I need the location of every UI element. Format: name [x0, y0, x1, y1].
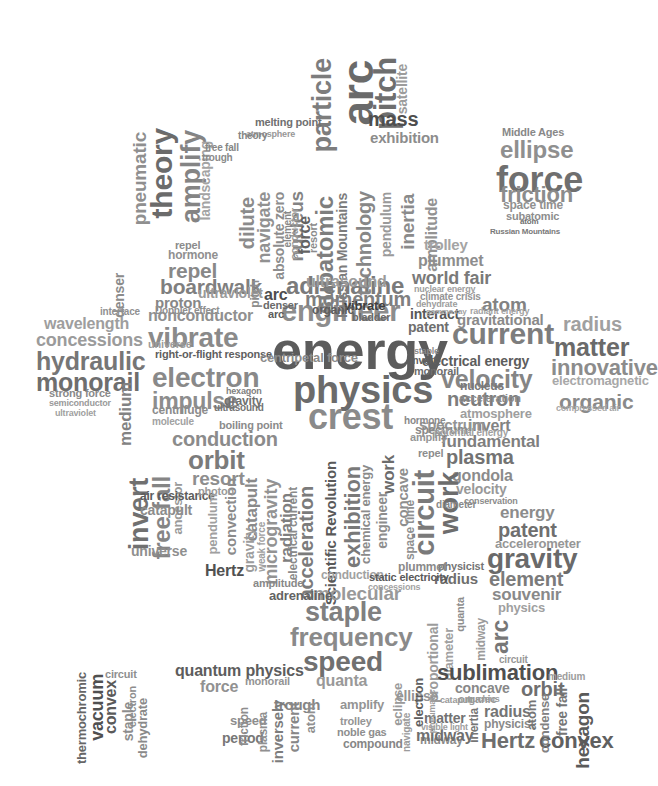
- cloud-word: hexagon: [226, 387, 262, 396]
- cloud-word: monorail: [414, 366, 459, 377]
- cloud-word: element: [283, 211, 293, 247]
- cloud-word: ultrasound: [214, 403, 264, 413]
- cloud-word: ellipse: [500, 138, 573, 161]
- cloud-word: repel: [175, 240, 200, 251]
- cloud-word: crest: [308, 400, 393, 435]
- cloud-word: wavelength: [44, 316, 129, 331]
- cloud-word: medium: [118, 382, 134, 446]
- cloud-word: repel: [418, 448, 443, 459]
- cloud-word: force: [200, 679, 238, 694]
- cloud-word: gamma ray: [426, 308, 466, 316]
- cloud-word: condense: [539, 694, 551, 753]
- cloud-word: electrical current: [288, 487, 300, 580]
- cloud-word: molecule: [152, 417, 194, 427]
- cloud-word: Hertz: [205, 563, 244, 578]
- cloud-word: adrenaline: [269, 590, 332, 602]
- cloud-word: electromagnetic: [552, 375, 649, 387]
- cloud-word: hexagon: [574, 692, 592, 769]
- cloud-word: Middle Ages: [502, 127, 564, 138]
- cloud-word: particle: [310, 58, 336, 152]
- cloud-word: quanta: [316, 673, 367, 688]
- cloud-word: hormone: [168, 250, 218, 262]
- cloud-word: patent: [408, 321, 449, 334]
- cloud-word: electron: [413, 678, 425, 727]
- cloud-word: ultraviolet: [55, 409, 96, 418]
- cloud-word: weak force: [257, 522, 267, 572]
- cloud-word: amplify: [340, 699, 384, 711]
- cloud-word: dehydrate: [137, 698, 149, 758]
- cloud-word: boiling point: [219, 420, 282, 431]
- cloud-word: free fall: [556, 688, 569, 736]
- cloud-word: centripetal force: [260, 352, 358, 364]
- cloud-word: semiconductor: [49, 399, 111, 408]
- cloud-word: nucleus: [460, 381, 504, 393]
- cloud-word: catapult: [440, 696, 473, 705]
- cloud-word: compound: [343, 739, 403, 751]
- cloud-word: chemical energy: [360, 465, 372, 564]
- cloud-word: organic: [312, 305, 354, 317]
- cloud-word: interface: [100, 307, 140, 317]
- cloud-word: exhibition: [370, 131, 439, 145]
- word-cloud: energyphysicscrestengineeradrenalinecurr…: [0, 0, 658, 786]
- cloud-word: hormone: [404, 416, 445, 426]
- cloud-word: pneumatic: [428, 690, 437, 733]
- cloud-word: pitch: [250, 280, 262, 308]
- cloud-word: space time: [405, 500, 417, 560]
- cloud-word: Doppler effect: [155, 306, 219, 316]
- cloud-word: atom: [520, 218, 538, 226]
- cloud-word: radiant energy: [470, 307, 529, 316]
- cloud-word: radius: [563, 315, 622, 334]
- cloud-word: atom: [526, 700, 538, 730]
- cloud-word: monorail: [245, 676, 290, 687]
- cloud-word: theory: [238, 131, 267, 141]
- cloud-word: pendulum: [380, 192, 393, 257]
- cloud-word: amplitude: [253, 578, 303, 589]
- cloud-word: plasma: [258, 712, 270, 752]
- cloud-word: ultrasound: [306, 274, 387, 289]
- cloud-word: arc: [268, 309, 284, 320]
- cloud-word: resort: [308, 223, 319, 253]
- cloud-word: engineer: [376, 492, 389, 549]
- cloud-word: photon: [198, 486, 234, 497]
- cloud-word: trough: [202, 153, 232, 163]
- cloud-word: circuit: [105, 669, 137, 680]
- cloud-word: conservation: [464, 497, 518, 506]
- cloud-word: melting point: [255, 117, 321, 128]
- cloud-word: inversely: [271, 700, 285, 763]
- cloud-word: physics: [498, 602, 545, 614]
- cloud-word: inertia: [399, 194, 417, 250]
- cloud-word: concessions: [36, 332, 143, 349]
- cloud-word: plummet: [398, 562, 447, 574]
- cloud-word: electron: [127, 686, 138, 727]
- cloud-word: medium: [548, 672, 585, 682]
- cloud-word: satellite: [396, 64, 409, 114]
- cloud-word: compressed air: [556, 404, 620, 413]
- cloud-word: work: [381, 455, 397, 494]
- cloud-word: current: [287, 702, 301, 752]
- cloud-word: quanta: [455, 597, 466, 632]
- cloud-word: friction: [239, 707, 251, 746]
- cloud-word: nuclear energy: [414, 285, 475, 294]
- cloud-word: concessions: [368, 583, 420, 592]
- cloud-word: convex: [103, 680, 118, 734]
- cloud-word: Hertz: [481, 730, 535, 751]
- cloud-word: strong force: [49, 388, 111, 399]
- cloud-word: plasma: [446, 448, 514, 467]
- cloud-word: trolley: [340, 716, 372, 727]
- cloud-word: plummet: [418, 253, 483, 268]
- cloud-word: circuit: [499, 655, 528, 665]
- cloud-word: amplify: [410, 432, 447, 443]
- cloud-word: gravity: [243, 528, 256, 573]
- cloud-word: noble gas: [337, 727, 387, 738]
- cloud-word: arc: [489, 620, 511, 654]
- cloud-word: midway: [476, 618, 488, 661]
- cloud-word: inertia: [469, 708, 481, 743]
- cloud-word: navigate: [402, 713, 412, 752]
- cloud-word: right-or-flight response: [155, 349, 272, 360]
- cloud-word: bladder: [352, 312, 390, 323]
- cloud-word: Russian Mountains: [490, 228, 560, 236]
- cloud-word: centrifuge: [152, 405, 208, 417]
- cloud-word: universe: [131, 545, 187, 558]
- cloud-word: theory: [148, 128, 177, 219]
- cloud-word: trolley: [424, 238, 468, 252]
